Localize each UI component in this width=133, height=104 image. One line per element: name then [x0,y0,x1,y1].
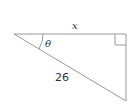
label-theta: θ [45,38,51,49]
triangle [14,34,126,101]
right-angle-marker [115,34,126,45]
triangle-diagram: x θ 26 [0,0,133,104]
side-hypotenuse [14,34,126,101]
label-hypotenuse: 26 [55,71,69,84]
angle-arc [39,34,43,49]
label-x: x [72,20,78,31]
